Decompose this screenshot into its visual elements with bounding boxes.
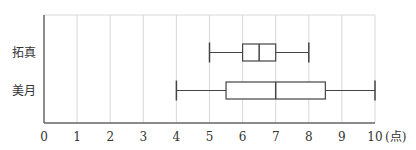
x-unit-label: (点)	[385, 130, 406, 144]
x-tick-label: 2	[106, 130, 114, 144]
x-tick-label: 4	[173, 130, 181, 144]
category-label: 拓真	[12, 46, 36, 60]
x-tick-label: 1	[73, 130, 81, 144]
x-tick-label: 6	[239, 130, 247, 144]
x-tick-label: 0	[40, 130, 48, 144]
x-tick-label: 8	[305, 130, 313, 144]
x-tick-label: 7	[272, 130, 280, 144]
category-label: 美月	[12, 84, 36, 98]
box-plot-chart: 012345678910(点)拓真美月	[0, 0, 416, 150]
x-tick-label: 3	[139, 130, 147, 144]
x-tick-label: 9	[338, 130, 346, 144]
x-tick-label: 5	[206, 130, 214, 144]
x-tick-label: 10	[367, 130, 382, 144]
